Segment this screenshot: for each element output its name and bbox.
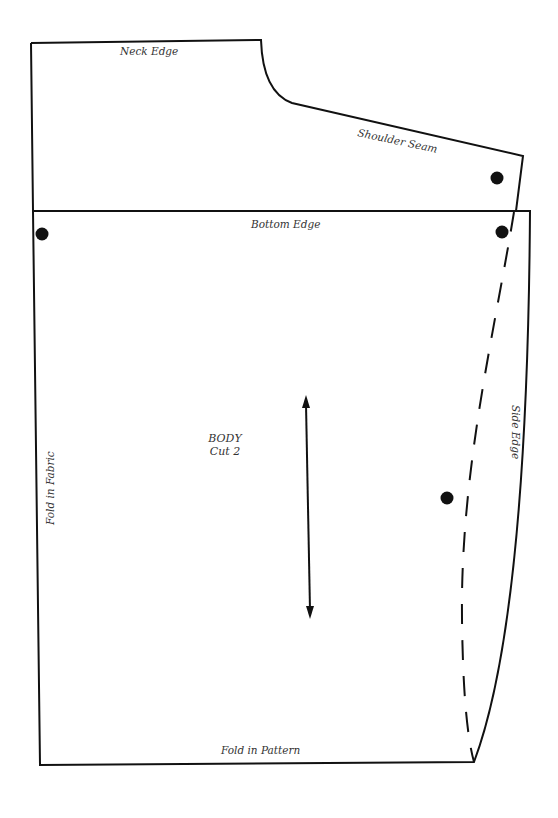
cut-instruction-label: Cut 2 <box>210 445 240 458</box>
fold-in-pattern-label: Fold in Pattern <box>220 744 300 756</box>
shoulder-seam-label: Shoulder Seam <box>357 126 439 155</box>
pattern-diagram: Neck Edge Shoulder Seam Bottom Edge Side… <box>0 0 558 818</box>
neck-edge-label: Neck Edge <box>119 45 178 57</box>
piece-name-label: BODY <box>207 432 243 445</box>
marker-dot-icon <box>36 228 49 241</box>
bottom-edge-label: Bottom Edge <box>250 218 320 230</box>
side-edge-label: Side Edge <box>510 405 522 459</box>
grainline-arrow-icon <box>302 395 314 619</box>
dashed-cutting-line <box>462 212 514 762</box>
upper-piece-outline <box>31 40 523 211</box>
fold-in-fabric-label: Fold in Fabric <box>44 451 56 526</box>
marker-dot-icon <box>496 226 509 239</box>
body-piece-outline <box>31 43 530 765</box>
marker-dot-icon <box>441 492 454 505</box>
marker-dot-icon <box>491 172 504 185</box>
